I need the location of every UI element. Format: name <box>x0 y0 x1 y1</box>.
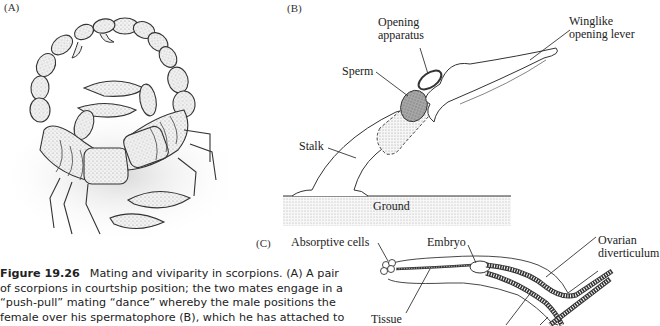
label-ground: Ground <box>373 200 410 213</box>
label-sperm: Sperm <box>342 65 373 78</box>
ovarian-diverticulum-diagram <box>300 225 660 325</box>
figure-caption: Figure 19.26Mating and viviparity in sco… <box>0 267 344 325</box>
caption-line-1: Figure 19.26Mating and viviparity in sco… <box>0 267 344 282</box>
label-opening-apparatus: Opening apparatus <box>378 16 424 42</box>
caption-line-3: “push-pull” mating “dance” whereby the m… <box>0 296 344 311</box>
label-winglike-lever: Winglike opening lever <box>569 15 635 41</box>
panel-c-label: (C) <box>256 237 271 249</box>
scorpion-illustration <box>0 0 280 240</box>
caption-line-4: female over his spermatophore (B), which… <box>0 311 344 326</box>
label-stalk: Stalk <box>299 140 324 153</box>
caption-line-2: of scorpions in courtship position; the … <box>0 282 344 297</box>
figure-number: Figure 19.26 <box>0 267 80 280</box>
